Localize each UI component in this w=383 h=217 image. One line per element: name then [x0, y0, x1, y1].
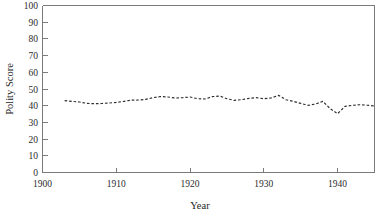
x-tick-label: 1930	[254, 179, 273, 189]
y-tick-label: 10	[29, 151, 39, 161]
x-tick-label: 1900	[33, 179, 52, 189]
y-tick-label: 90	[29, 18, 39, 28]
data-series-line-polity-score	[65, 95, 375, 113]
x-axis-tick-labels: 1900 1910 1920 1930 1940	[33, 179, 347, 189]
y-tick-label: 60	[29, 68, 39, 78]
y-tick-label: 40	[29, 101, 39, 111]
y-tick-label: 70	[29, 51, 39, 61]
x-tick-label: 1920	[181, 179, 200, 189]
y-tick-label: 20	[29, 135, 39, 145]
y-tick-label: 50	[29, 85, 39, 95]
x-axis-title: Year	[190, 200, 210, 211]
y-axis-title: Polity Score	[4, 63, 15, 115]
y-axis-tickmarks	[43, 6, 48, 173]
y-tick-label: 80	[29, 34, 39, 44]
chart-container: 100 90 80 70 60 50 40 30 20 10 0 1900 19…	[0, 0, 383, 217]
x-tick-label: 1940	[328, 179, 347, 189]
x-tick-label: 1910	[107, 179, 126, 189]
x-axis-tickmarks	[43, 168, 338, 173]
y-tick-label: 100	[24, 1, 39, 11]
y-tick-label: 0	[33, 168, 38, 178]
y-axis-tick-labels: 100 90 80 70 60 50 40 30 20 10 0	[24, 1, 39, 178]
plot-frame	[43, 6, 375, 173]
polity-score-line-chart: 100 90 80 70 60 50 40 30 20 10 0 1900 19…	[0, 0, 383, 217]
y-tick-label: 30	[29, 118, 39, 128]
